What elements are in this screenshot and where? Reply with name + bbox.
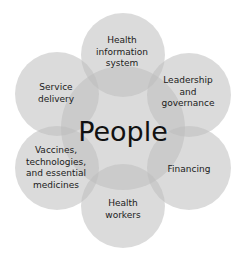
node-label-health-workers: Healthworkers [105, 198, 140, 221]
node-label-health-information-system: Healthinformationsystem [96, 35, 148, 70]
node-label-service-delivery: Servicedelivery [38, 82, 74, 105]
node-label-vaccines: Vaccines,technologies,and essentialmedic… [26, 145, 86, 191]
center-label: People [78, 116, 168, 147]
node-label-financing: Financing [168, 164, 211, 176]
node-label-leadership-governance: Leadershipandgovernance [161, 75, 214, 110]
